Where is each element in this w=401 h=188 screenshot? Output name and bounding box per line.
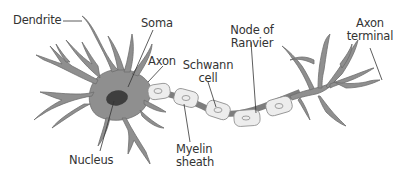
myelin-sheath-segments (147, 83, 294, 127)
label-soma: Soma (141, 17, 173, 30)
label-myelin-sheath-line2: sheath (176, 156, 214, 169)
label-schwann-cell-line2: cell (182, 72, 234, 85)
label-node-of-ranvier-line2: Ranvier (226, 37, 278, 50)
label-axon-terminal-line2: terminal (344, 30, 396, 43)
label-node-of-ranvier: Node of Ranvier (226, 24, 278, 50)
soma-and-dendrites (34, 16, 166, 164)
label-nucleus: Nucleus (69, 154, 113, 167)
label-schwann-cell: Schwann cell (182, 59, 234, 85)
label-dendrite: Dendrite (13, 14, 61, 27)
label-myelin-sheath: Myelin sheath (176, 143, 214, 169)
label-axon-terminal: Axon terminal (344, 17, 396, 43)
axon-terminal-branches (282, 34, 380, 126)
label-axon: Axon (148, 55, 176, 68)
